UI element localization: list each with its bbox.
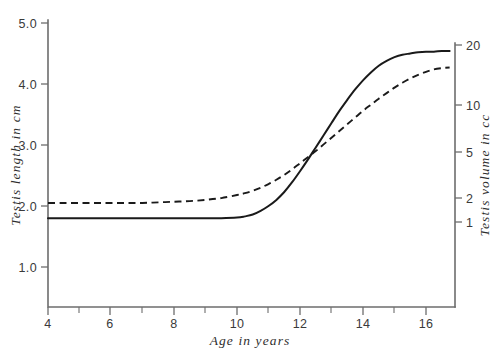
x-ticklabel-10: 10 xyxy=(230,317,245,331)
x-axis-ticks xyxy=(48,307,426,315)
x-ticklabel-12: 12 xyxy=(293,317,308,331)
y2-ticklabel-5: 5 xyxy=(466,146,473,160)
y-axis-ticks-left xyxy=(41,23,48,267)
testis-growth-chart: 5.0 4.0 3.0 2.0 1.0 20 10 5 2 1 xyxy=(0,0,497,350)
x-ticklabel-6: 6 xyxy=(106,317,113,331)
x-ticklabel-16: 16 xyxy=(419,317,434,331)
x-axis-title: Age in years xyxy=(209,333,291,348)
y-axis-title-left: Testis length in cm xyxy=(8,104,23,225)
x-axis-ticklabels: 4 6 8 10 12 14 16 xyxy=(44,317,433,331)
y2-ticklabel-1: 1 xyxy=(466,216,473,230)
chart-figure: 5.0 4.0 3.0 2.0 1.0 20 10 5 2 1 xyxy=(0,0,497,350)
testis-volume-curve xyxy=(48,68,450,203)
x-ticklabel-4: 4 xyxy=(44,317,51,331)
y2-ticklabel-10: 10 xyxy=(466,99,481,113)
y2-ticklabel-20: 20 xyxy=(466,39,481,53)
y-axis-title-right: Testis volume in cc xyxy=(477,114,492,237)
y-ticklabel-1: 1.0 xyxy=(18,261,37,275)
x-ticklabel-8: 8 xyxy=(170,317,177,331)
testis-length-curve xyxy=(48,51,450,218)
y-ticklabel-5: 5.0 xyxy=(18,17,37,31)
y2-ticklabel-2: 2 xyxy=(466,192,473,206)
x-ticklabel-14: 14 xyxy=(356,317,371,331)
y-ticklabel-4: 4.0 xyxy=(18,78,37,92)
axis-left-bottom-line xyxy=(48,20,455,307)
y-axis-ticks-right xyxy=(455,45,462,222)
